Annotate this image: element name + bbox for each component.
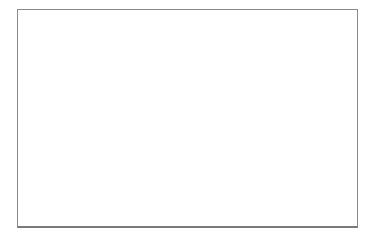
flash-card — [17, 9, 358, 228]
